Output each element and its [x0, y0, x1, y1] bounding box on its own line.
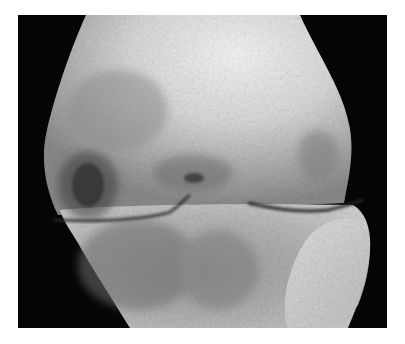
xray-image [18, 15, 387, 328]
knee-xray-graphic [18, 15, 387, 328]
